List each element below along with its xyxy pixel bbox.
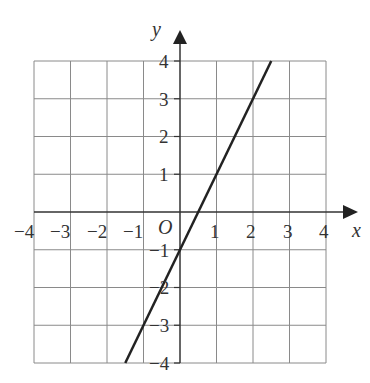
x-tick-label: −4	[14, 221, 35, 242]
x-tick-label: 4	[319, 221, 329, 242]
coordinate-plane: y x O −4 −3 −2 −1 1 2 3 4 4 3 2 1 −1 −2 …	[0, 0, 370, 383]
y-axis-arrow-icon	[173, 30, 187, 44]
x-tick-label: −2	[87, 221, 107, 242]
x-tick-label: −3	[50, 221, 70, 242]
x-axis-label: x	[351, 219, 361, 241]
origin-label: O	[158, 216, 172, 238]
y-tick-label: −4	[149, 353, 170, 374]
y-tick-label: −3	[149, 315, 169, 336]
y-axis-label: y	[150, 18, 161, 41]
x-tick-label: 2	[246, 221, 256, 242]
y-tick-label: −2	[149, 277, 169, 298]
y-tick-label: −1	[149, 240, 169, 261]
x-tick-label: 1	[210, 221, 220, 242]
x-tick-label: 3	[283, 221, 293, 242]
y-tick-label: 3	[159, 89, 169, 110]
y-tick-label: 2	[159, 126, 169, 147]
x-axis-arrow-icon	[343, 205, 358, 219]
x-tick-label: −1	[123, 221, 143, 242]
y-tick-label: 1	[159, 164, 169, 185]
y-tick-label: 4	[159, 51, 169, 72]
